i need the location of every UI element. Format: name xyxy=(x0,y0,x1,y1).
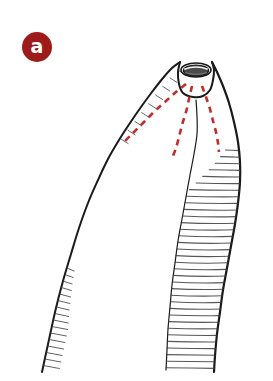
right-wall-hatch-line xyxy=(221,157,240,158)
figure-panel: a xyxy=(0,0,273,381)
apical-opening-layer xyxy=(181,63,211,77)
right-wall-hatch-line xyxy=(203,176,240,177)
right-wall-hatch-line xyxy=(196,183,240,184)
right-wall-hatch-line xyxy=(226,150,239,151)
right-wall-hatch-line xyxy=(166,368,214,369)
right-wall-hatch-line xyxy=(209,170,240,171)
right-wall-hatch-line xyxy=(167,348,216,349)
right-wall-hatch-line xyxy=(189,190,239,191)
right-wall-hatch-line xyxy=(167,355,215,356)
panel-label-badge: a xyxy=(22,32,52,62)
right-wall-hatch-line xyxy=(215,163,240,164)
right-wall-hatch-line xyxy=(166,361,214,362)
panel-label-text: a xyxy=(31,37,44,56)
right-wall-hatch-line xyxy=(168,335,217,336)
right-wall-hatch-line xyxy=(167,341,216,342)
